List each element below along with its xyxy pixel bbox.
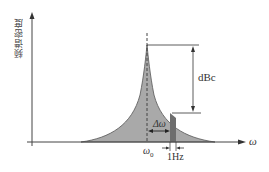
x-axis-label: ω [249,136,257,147]
dbc-arrow-up-icon [191,46,195,52]
y-axis-arrow-icon [30,12,35,19]
y-axis-label: 频谱密度 [14,18,23,58]
spectrum-curve [81,45,215,142]
center-frequency-label: ω0 [143,146,154,159]
center-frequency-subscript: 0 [150,151,154,159]
bandwidth-label: 1Hz [167,152,184,162]
bandwidth-arrow-left-icon [166,147,170,150]
dbc-label: dBc [198,72,216,83]
measurement-band [170,113,176,142]
delta-omega-label: Δω [153,119,166,129]
x-axis-arrow-icon [238,140,246,145]
dbc-arrow-down-icon [191,106,195,112]
spectrum-diagram [0,0,269,172]
center-frequency-symbol: ω [143,145,150,156]
bandwidth-arrow-right-icon [176,147,180,150]
